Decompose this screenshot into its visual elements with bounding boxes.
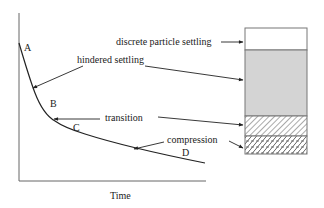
- point-label-c: C: [73, 122, 80, 133]
- point-label-a: A: [24, 42, 32, 53]
- label-discrete-particle-settling: discrete particle settling: [116, 36, 212, 47]
- zone-transition: [245, 116, 307, 136]
- x-axis-label: Time: [110, 190, 131, 201]
- zone-compression: [245, 136, 307, 154]
- point-label-d: D: [182, 147, 189, 158]
- arrow-hindered-to-column: [145, 66, 243, 80]
- zone-discrete-particle: [245, 28, 307, 50]
- settling-column: [245, 28, 307, 154]
- settling-curve-diagram: A B C D discrete particle settling hinde…: [0, 0, 324, 208]
- zone-hindered: [245, 50, 307, 116]
- arrow-compression-to-curve: [134, 142, 164, 149]
- label-transition: transition: [105, 112, 143, 123]
- arrow-compression-to-column: [229, 141, 243, 148]
- point-label-b: B: [50, 98, 57, 109]
- arrow-transition-to-column: [158, 117, 243, 125]
- arrow-hindered-to-curve: [33, 66, 83, 88]
- label-hindered-settling: hindered settling: [77, 54, 144, 65]
- label-compression: compression: [167, 134, 218, 145]
